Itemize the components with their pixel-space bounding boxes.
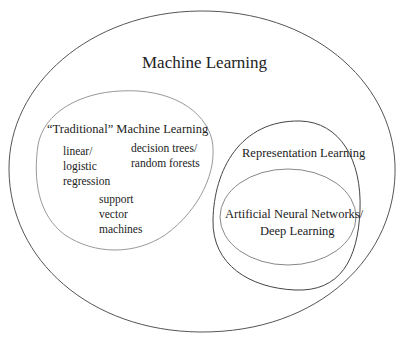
item-support-vector-machines: support vector machines (99, 192, 142, 237)
representation-learning-label: Representation Learning (242, 146, 365, 161)
machine-learning-label: Machine Learning (142, 53, 267, 73)
ann-label-line1: Artificial Neural Networks/ (225, 207, 363, 222)
item-decision-trees-random-forests: decision trees/ random forests (131, 141, 200, 171)
traditional-ml-label: “Traditional” Machine Learning (47, 122, 208, 137)
ann-label-line2: Deep Learning (260, 224, 335, 239)
item-linear-logistic-regression: linear/ logistic regression (63, 144, 110, 189)
venn-shapes (0, 0, 406, 340)
